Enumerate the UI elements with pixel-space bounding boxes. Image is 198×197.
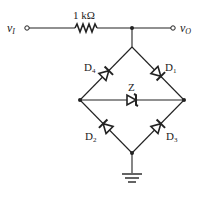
output-label: vO: [180, 21, 191, 36]
junction-dot: [130, 26, 134, 30]
d4-label: D4: [84, 61, 96, 75]
resistor: [75, 24, 97, 32]
d1-label: D1: [165, 61, 177, 75]
input-label: vI: [7, 21, 15, 36]
right-node-dot: [182, 98, 186, 102]
left-node-dot: [78, 98, 82, 102]
zener-diode: [127, 94, 138, 106]
input-terminal: [25, 26, 29, 30]
bottom-node-dot: [130, 151, 134, 155]
output-terminal: [171, 26, 175, 30]
zener-label: Z: [128, 81, 135, 93]
d3-label: D3: [166, 130, 178, 144]
d2-label: D2: [85, 130, 97, 144]
resistor-label: 1 kΩ: [73, 9, 95, 21]
circuit-diagram: vI vO 1 kΩ D4 D1 Z D2 D3: [0, 0, 198, 197]
